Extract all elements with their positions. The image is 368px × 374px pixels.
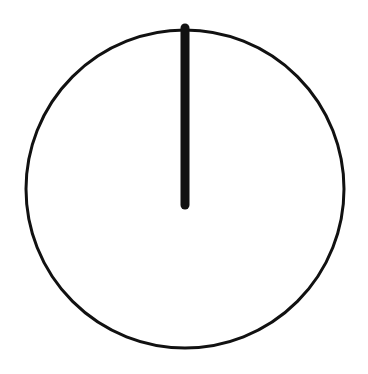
- circle-radius-diagram: [0, 0, 368, 374]
- diagram-canvas: [0, 0, 368, 374]
